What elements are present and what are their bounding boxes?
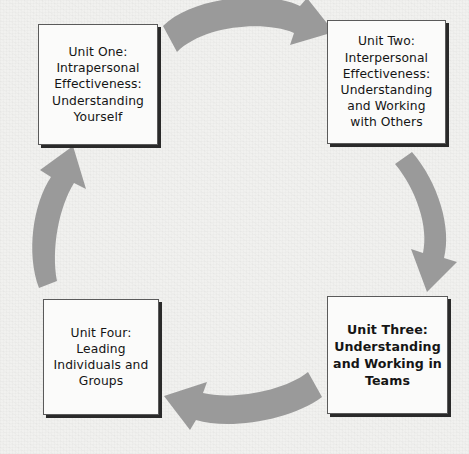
cycle-diagram: Unit One: Intrapersonal Effectiveness: U… <box>0 0 469 454</box>
curved-arrow-up-icon <box>32 146 86 288</box>
unit-box-unit-four[interactable]: Unit Four: Leading Individuals and Group… <box>43 299 159 415</box>
unit-box-unit-three[interactable]: Unit Three: Understanding and Working in… <box>327 296 448 414</box>
curved-arrow-down-icon <box>395 152 457 292</box>
curved-arrow-right-icon <box>163 0 334 52</box>
unit-box-label: Unit One: Intrapersonal Effectiveness: U… <box>52 44 144 125</box>
unit-box-label: Unit Four: Leading Individuals and Group… <box>54 325 149 390</box>
unit-box-unit-two[interactable]: Unit Two: Interpersonal Effectiveness: U… <box>327 20 446 144</box>
unit-box-unit-one[interactable]: Unit One: Intrapersonal Effectiveness: U… <box>38 24 158 145</box>
curved-arrow-left-icon <box>164 372 322 430</box>
unit-box-label: Unit Two: Interpersonal Effectiveness: U… <box>341 33 433 130</box>
unit-box-label: Unit Three: Understanding and Working in… <box>333 321 442 389</box>
